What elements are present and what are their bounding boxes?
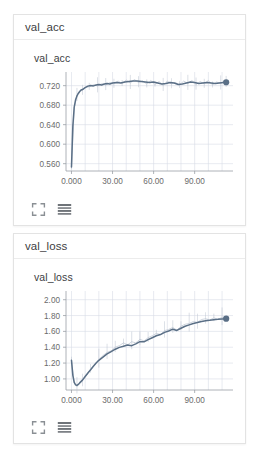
chart-card-val-acc: val_acc val_acc 0.5600.6000.6400.6800.72…	[13, 14, 246, 226]
svg-text:0.600: 0.600	[40, 140, 61, 149]
chart-footer-val-loss	[31, 420, 72, 435]
svg-text:1.80: 1.80	[44, 312, 60, 321]
svg-text:1.20: 1.20	[44, 359, 60, 368]
chart-plot-val-acc[interactable]: 0.5600.6000.6400.6800.7200.00030.0060.00…	[20, 68, 241, 193]
card-body-val-loss: val_loss 1.001.201.401.601.802.000.00030…	[14, 259, 245, 443]
svg-text:1.40: 1.40	[44, 343, 60, 352]
svg-text:1.60: 1.60	[44, 327, 60, 336]
svg-text:0.000: 0.000	[61, 396, 82, 405]
svg-text:60.00: 60.00	[143, 177, 164, 186]
chart-card-val-loss: val_loss val_loss 1.001.201.401.601.802.…	[13, 233, 246, 444]
svg-text:0.720: 0.720	[40, 82, 61, 91]
svg-text:0.560: 0.560	[40, 160, 61, 169]
card-tag-label: val_loss	[25, 239, 67, 253]
line-chart-svg: 1.001.201.401.601.802.000.00030.0060.009…	[20, 287, 241, 412]
svg-text:30.00: 30.00	[102, 177, 123, 186]
svg-text:90.00: 90.00	[184, 177, 205, 186]
chart-footer-val-acc	[31, 202, 72, 217]
card-body-val-acc: val_acc 0.5600.6000.6400.6800.7200.00030…	[14, 40, 245, 225]
svg-text:90.00: 90.00	[184, 396, 205, 405]
card-header-val-loss: val_loss	[14, 234, 245, 259]
data-table-icon[interactable]	[57, 420, 72, 435]
chart-title: val_loss	[34, 271, 73, 283]
card-tag-label: val_acc	[25, 20, 65, 34]
svg-text:0.640: 0.640	[40, 121, 61, 130]
svg-text:0.680: 0.680	[40, 101, 61, 110]
expand-icon[interactable]	[31, 420, 46, 435]
chart-title: val_acc	[34, 52, 70, 64]
card-header-val-acc: val_acc	[14, 15, 245, 40]
scalars-panel: val_acc val_acc 0.5600.6000.6400.6800.72…	[0, 0, 261, 458]
svg-text:30.00: 30.00	[102, 396, 123, 405]
data-table-icon[interactable]	[57, 202, 72, 217]
expand-icon[interactable]	[31, 202, 46, 217]
svg-text:0.000: 0.000	[61, 177, 82, 186]
line-chart-svg: 0.5600.6000.6400.6800.7200.00030.0060.00…	[20, 68, 241, 193]
svg-text:60.00: 60.00	[143, 396, 164, 405]
chart-plot-val-loss[interactable]: 1.001.201.401.601.802.000.00030.0060.009…	[20, 287, 241, 412]
svg-text:2.00: 2.00	[44, 296, 60, 305]
svg-text:1.00: 1.00	[44, 375, 60, 384]
